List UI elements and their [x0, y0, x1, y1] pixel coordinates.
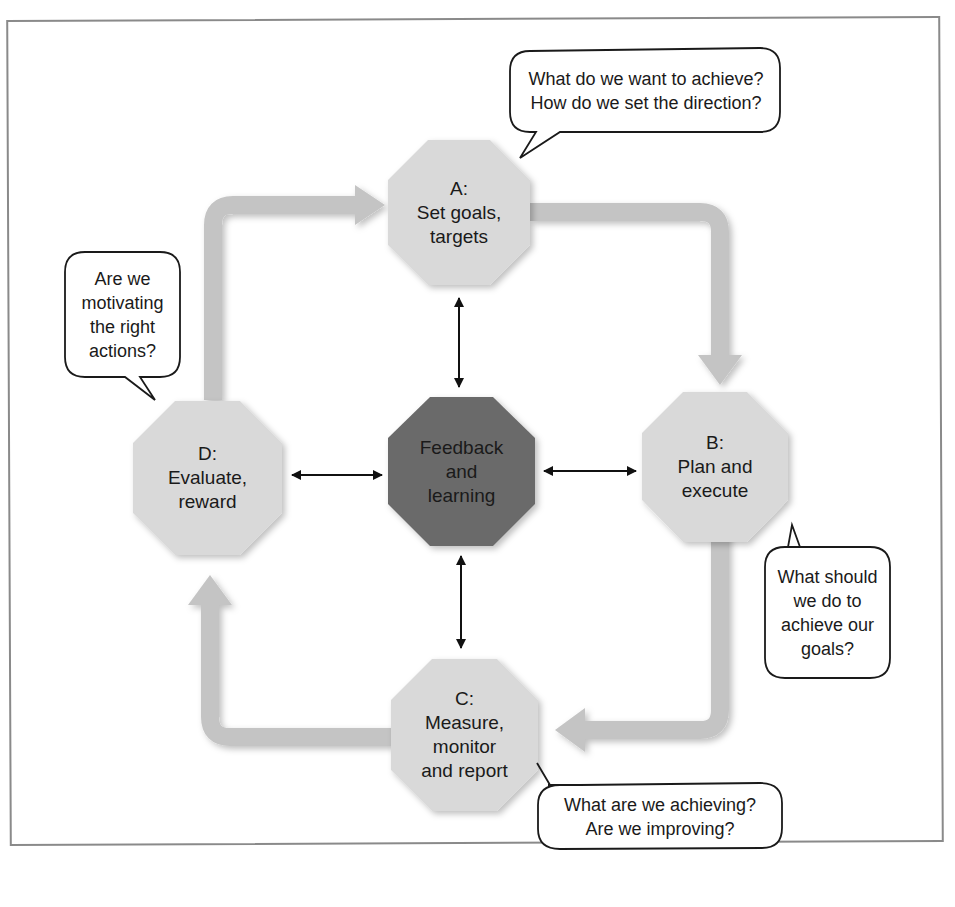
bubble-b-text: What should we do to achieve our goals? [766, 549, 889, 677]
flow-arrow-c-to-d [188, 575, 392, 737]
bubble-d-text: Are we motivating the right actions? [66, 254, 179, 376]
node-c-label: C: Measure, monitor and report [391, 659, 538, 811]
node-b-label: B: Plan and execute [642, 392, 788, 542]
node-center-label: Feedback and learning [388, 397, 535, 546]
node-d-label: D: Evaluate, reward [133, 401, 282, 555]
node-a-label: A: Set goals, targets [388, 140, 530, 285]
bubble-a-text: What do we want to achieve? How do we se… [515, 50, 777, 132]
flow-arrow-b-to-c [555, 520, 720, 752]
flow-arrow-d-to-a [213, 185, 385, 400]
bubble-c-text: What are we achieving? Are we improving? [540, 786, 780, 848]
flow-arrow-a-to-b [530, 212, 742, 385]
